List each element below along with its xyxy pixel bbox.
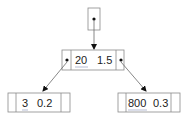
left-pointer-dot-icon: [65, 58, 68, 61]
tree-node-right: 800 0.3: [118, 93, 180, 112]
node-value: 1.5: [97, 54, 112, 66]
tree-node-left: 3 0.2: [8, 93, 70, 112]
right-edge: [121, 62, 146, 91]
node-value: 0.3: [153, 97, 168, 109]
tree-node-root: 20 1.5: [62, 50, 124, 70]
node-key: 800: [128, 97, 146, 109]
node-key: 20: [75, 54, 87, 66]
left-edge: [43, 62, 67, 91]
tree-diagram: 20 1.5 3 0.2 800 0.3: [0, 0, 190, 122]
right-pointer-dot-icon: [119, 58, 122, 61]
node-key: 3: [22, 97, 28, 109]
node-value: 0.2: [37, 97, 52, 109]
